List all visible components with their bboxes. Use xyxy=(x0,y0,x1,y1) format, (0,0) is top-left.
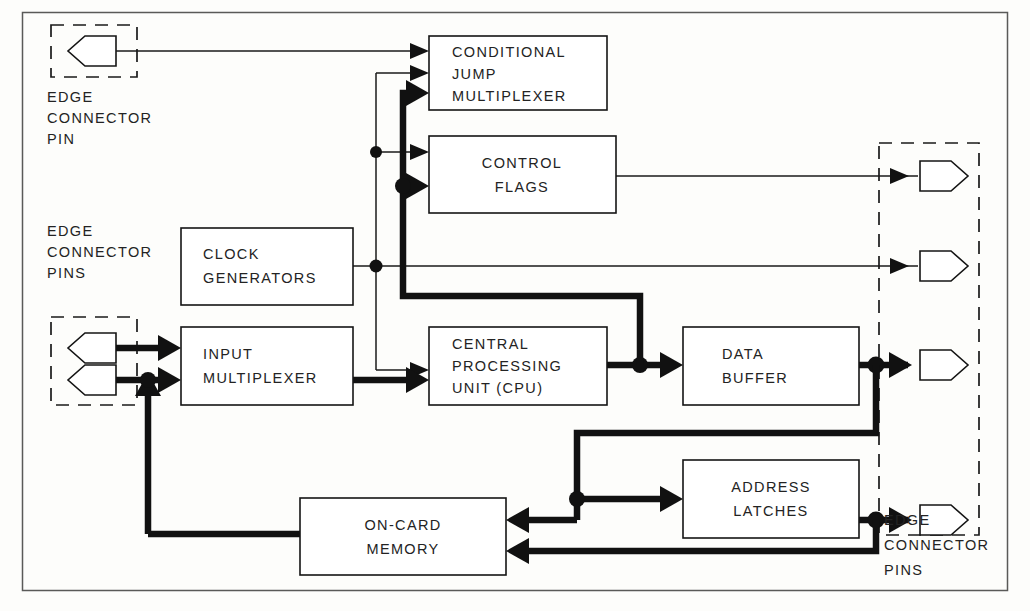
block-data-buffer[interactable] xyxy=(683,327,859,405)
annotation-edge-connector-pin-top-line1: EDGE xyxy=(47,89,94,105)
annotation-edge-connector-pins-right-line2: CONNECTOR xyxy=(884,537,989,553)
arrowhead-controlflags-in1 xyxy=(410,144,429,160)
arrowhead-memory-in1 xyxy=(506,507,529,533)
junction-dot-clock-controlflags xyxy=(370,146,382,158)
arrowhead-jumpmux-in1 xyxy=(410,43,429,59)
block-control-flags[interactable] xyxy=(429,136,616,213)
block-address-latches[interactable] xyxy=(683,460,859,538)
annotation-edge-connector-pins-right-line1: EDGE xyxy=(884,512,931,528)
arrowhead-edgepin-right-2 xyxy=(890,258,909,274)
block-diagram: CONDITIONAL JUMP MULTIPLEXER CONTROL FLA… xyxy=(0,0,1030,611)
label-conditional-jump-multiplexer-line3: MULTIPLEXER xyxy=(452,88,567,104)
arrowhead-edgepin-right-1 xyxy=(890,168,909,184)
annotation-edge-connector-pin-top-line3: PIN xyxy=(47,131,75,147)
label-address-latches-line1: ADDRESS xyxy=(731,479,811,495)
junction-dot-inputmux-in2 xyxy=(140,372,156,388)
label-input-multiplexer-line2: MULTIPLEXER xyxy=(203,370,318,386)
junction-dot-clock-main xyxy=(370,260,383,273)
label-central-processing-unit-line2: PROCESSING xyxy=(452,358,562,374)
edge-connector-pin-left-1-symbol xyxy=(68,333,116,363)
junction-dot-address-branch xyxy=(569,491,585,507)
annotation-edge-connector-pins-left-line2: CONNECTOR xyxy=(47,244,152,260)
arrowhead-edgepin-right-3 xyxy=(889,352,912,378)
label-on-card-memory-line1: ON-CARD xyxy=(364,517,441,533)
label-central-processing-unit-line1: CENTRAL xyxy=(452,336,529,352)
block-on-card-memory[interactable] xyxy=(300,498,506,575)
arrowhead-inputmux-in1 xyxy=(158,335,181,361)
arrowhead-jumpmux-in3 xyxy=(406,80,429,106)
label-data-buffer-line1: DATA xyxy=(722,346,764,362)
edge-connector-pin-right-1-symbol xyxy=(920,161,968,191)
arrowhead-memory-in2 xyxy=(506,538,529,564)
label-address-latches-line2: LATCHES xyxy=(733,503,808,519)
arrowhead-databuffer-in xyxy=(660,352,683,378)
arrowhead-inputmux-in2 xyxy=(158,367,181,393)
annotation-edge-connector-pins-left-line1: EDGE xyxy=(47,223,94,239)
label-control-flags-line1: CONTROL xyxy=(482,155,562,171)
label-data-buffer-line2: BUFFER xyxy=(722,370,788,386)
bus-cpu-feedback-to-jumpmux xyxy=(403,93,640,365)
label-clock-generators-line2: GENERATORS xyxy=(203,270,317,286)
edge-connector-pin-right-2-symbol xyxy=(920,251,968,281)
arrowhead-addresslatches-in xyxy=(660,486,683,512)
junction-dot-cpu-controlflags xyxy=(395,178,411,194)
edge-connector-pin-right-3-symbol xyxy=(920,350,968,380)
annotation-edge-connector-pins-right-line3: PINS xyxy=(884,562,923,578)
label-input-multiplexer-line1: INPUT xyxy=(203,346,253,362)
label-control-flags-line2: FLAGS xyxy=(495,179,549,195)
edge-connector-group-right xyxy=(879,143,979,535)
edge-connector-pin-left-2-symbol xyxy=(68,365,116,395)
annotation-edge-connector-pin-top-line2: CONNECTOR xyxy=(47,110,152,126)
diagram-canvas: CONDITIONAL JUMP MULTIPLEXER CONTROL FLA… xyxy=(0,0,1030,611)
block-input-multiplexer[interactable] xyxy=(181,327,353,405)
arrowhead-jumpmux-in2 xyxy=(410,65,429,81)
label-conditional-jump-multiplexer-line2: JUMP xyxy=(452,66,497,82)
label-central-processing-unit-line3: UNIT (CPU) xyxy=(452,380,543,396)
edge-connector-pin-top-symbol xyxy=(68,36,116,66)
label-conditional-jump-multiplexer-line1: CONDITIONAL xyxy=(452,44,566,60)
annotation-edge-connector-pins-left-line3: PINS xyxy=(47,265,86,281)
block-clock-generators[interactable] xyxy=(181,228,353,305)
label-clock-generators-line1: CLOCK xyxy=(203,246,260,262)
label-on-card-memory-line2: MEMORY xyxy=(366,541,439,557)
